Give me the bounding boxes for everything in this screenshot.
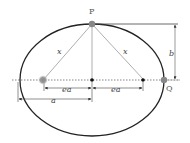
- label-ea-left: ea: [62, 85, 72, 94]
- label-p: P: [89, 7, 95, 16]
- ellipse-diagram: P Q x x b ea ea a: [0, 0, 190, 143]
- center-point: [90, 78, 94, 82]
- label-q: Q: [166, 84, 173, 93]
- left-focus-point: [38, 75, 48, 85]
- line-p-to-right-focus: [92, 24, 143, 79]
- line-p-to-left-focus: [44, 24, 92, 79]
- label-b: b: [169, 49, 174, 58]
- label-a: a: [51, 96, 56, 105]
- label-x-right: x: [123, 47, 128, 56]
- point-p: [89, 21, 95, 27]
- point-q: [161, 77, 167, 83]
- label-ea-right: ea: [111, 85, 121, 94]
- label-x-left: x: [57, 47, 62, 56]
- right-focus-point: [141, 78, 145, 82]
